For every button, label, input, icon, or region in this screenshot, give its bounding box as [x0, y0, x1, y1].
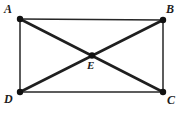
vertex-dot-e: [89, 52, 95, 58]
vertex-label-e: E: [87, 59, 94, 71]
segment-ab: [20, 19, 163, 20]
vertex-dot-a: [17, 16, 23, 22]
vertex-label-c: C: [167, 94, 175, 106]
vertex-label-a: A: [4, 3, 12, 15]
vertex-label-d: D: [4, 93, 13, 105]
vertex-dot-b: [160, 17, 166, 23]
vertex-label-b: B: [166, 3, 174, 15]
rectangle-diagonals-drawing: [0, 0, 182, 113]
vertex-dot-c: [160, 89, 166, 95]
geometry-figure: A B C D E: [0, 0, 182, 113]
vertex-dot-d: [17, 89, 23, 95]
